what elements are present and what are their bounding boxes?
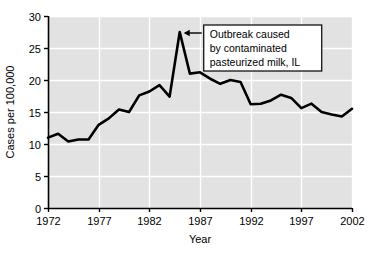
chart-figure: 051015202530 197219771982198719921997200… [0, 0, 385, 257]
y-tick-label: 0 [35, 203, 41, 215]
x-tick-label: 2002 [340, 215, 364, 227]
line-chart-plot: 051015202530 197219771982198719921997200… [0, 0, 385, 257]
x-tick-label: 1982 [137, 215, 161, 227]
annotation-line-2: by contaminated [210, 42, 287, 54]
annotation-line-1: Outbreak caused [210, 28, 290, 40]
y-axis-title: Cases per 100,000 [4, 66, 16, 159]
x-tick-label: 1997 [289, 215, 313, 227]
y-tick-label: 20 [29, 75, 41, 87]
y-tick-label: 15 [29, 107, 41, 119]
x-tick-label: 1992 [239, 215, 263, 227]
y-tick-label: 30 [29, 11, 41, 23]
x-tick-label: 1977 [87, 215, 111, 227]
y-tick-label: 25 [29, 43, 41, 55]
y-tick-label: 5 [35, 171, 41, 183]
x-axis-title: Year [189, 233, 212, 245]
y-tick-label: 10 [29, 139, 41, 151]
x-tick-label: 1972 [36, 215, 60, 227]
annotation-line-3: pasteurized milk, IL [210, 56, 301, 68]
outbreak-annotation: Outbreak caused by contaminated pasteuri… [184, 25, 322, 71]
x-tick-label: 1987 [188, 215, 212, 227]
